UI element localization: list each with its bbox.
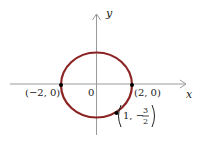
point-1-neg3half [115,111,119,115]
svg-text:3: 3 [143,106,148,115]
svg-text:1, −: 1, − [123,110,144,121]
svg-text:2: 2 [143,117,148,126]
origin-label: 0 [88,87,94,98]
y-axis-label: y [105,7,113,20]
point-label-2-0: (2, 0) [134,87,161,98]
x-axis-label: x [186,88,193,101]
point-label-neg2-0: (−2, 0) [25,87,60,98]
point-label-1-neg3half: 1, − 3 2 [119,105,155,127]
ellipse-diagram: y x 0 (−2, 0) (2, 0) 1, − 3 2 [0,0,204,144]
